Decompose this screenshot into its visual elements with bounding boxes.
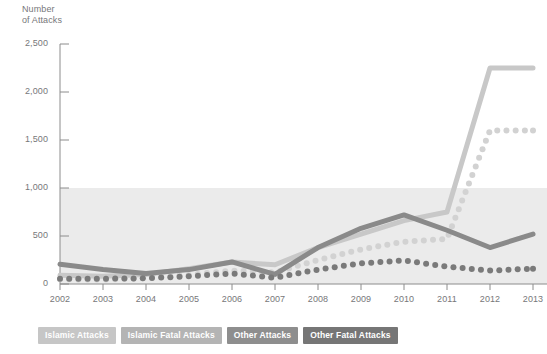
series-dot <box>339 251 345 257</box>
series-dot <box>286 272 292 278</box>
series-dot <box>469 172 475 178</box>
series-dot <box>473 163 479 169</box>
series-dot <box>432 262 438 268</box>
series-dot <box>131 275 137 281</box>
series-dot <box>452 215 458 221</box>
series-dot <box>348 249 354 255</box>
series-dot <box>321 255 327 261</box>
series-dot <box>515 266 521 272</box>
series-dot <box>250 273 256 279</box>
y-axis-tick-label: 1,500 <box>8 134 48 144</box>
series-dot <box>377 259 383 265</box>
series-dot <box>341 263 347 269</box>
series-dot <box>213 271 219 277</box>
series-dot <box>486 129 492 135</box>
series-dot <box>94 276 100 282</box>
x-axis-tick-label: 2010 <box>382 294 426 304</box>
series-dot <box>423 261 429 267</box>
series-dot <box>466 181 472 187</box>
series-dot <box>359 260 365 266</box>
series-dot <box>460 265 466 271</box>
series-dot <box>476 155 482 161</box>
chart-legend: Islamic AttacksIslamic Fatal AttacksOthe… <box>38 327 398 344</box>
x-axis-tick-label: 2012 <box>468 294 512 304</box>
series-dot <box>456 206 462 212</box>
series-dot <box>449 223 455 229</box>
series-dot <box>330 253 336 259</box>
series-dot <box>195 273 201 279</box>
series-dot <box>480 146 486 152</box>
series-dot <box>222 271 228 277</box>
series-dot <box>204 272 210 278</box>
x-axis-tick-label: 2008 <box>296 294 340 304</box>
series-dot <box>314 267 320 273</box>
series-dot <box>459 198 465 204</box>
series-dot <box>350 262 356 268</box>
series-dot <box>332 264 338 270</box>
series-dot <box>112 276 118 282</box>
series-dot <box>503 127 509 133</box>
x-axis-tick-label: 2011 <box>425 294 469 304</box>
series-dot <box>357 247 363 253</box>
y-axis-tick-label: 2,000 <box>8 86 48 96</box>
series-dot <box>85 276 91 282</box>
series-dot <box>313 258 319 264</box>
series-dot <box>496 267 502 273</box>
series-dot <box>402 239 408 245</box>
series-dot <box>304 260 310 266</box>
series-dot <box>396 258 402 264</box>
series-dot <box>375 243 381 249</box>
series-dot <box>384 242 390 248</box>
x-axis-tick-label: 2009 <box>339 294 383 304</box>
series-dot <box>478 267 484 273</box>
series-dot <box>368 260 374 266</box>
legend-item-islamic-fatal-attacks[interactable]: Islamic Fatal Attacks <box>121 327 222 344</box>
series-dot <box>241 272 247 278</box>
series-dot <box>524 266 530 272</box>
series-dot <box>103 276 109 282</box>
x-axis-tick-label: 2004 <box>124 294 168 304</box>
series-dot <box>393 240 399 246</box>
y-axis-tick-label: 1,000 <box>8 182 48 192</box>
series-dot <box>494 127 500 133</box>
x-axis-tick-label: 2013 <box>511 294 547 304</box>
series-dot <box>414 259 420 265</box>
series-dot <box>186 273 192 279</box>
series-dot <box>57 276 63 282</box>
series-dot <box>167 274 173 280</box>
legend-item-islamic-attacks[interactable]: Islamic Attacks <box>38 327 116 344</box>
series-dot <box>513 127 519 133</box>
series-dot <box>463 189 469 195</box>
series-dot <box>412 238 418 244</box>
x-axis-tick-label: 2007 <box>253 294 297 304</box>
series-dot <box>439 236 445 242</box>
series-dot <box>149 275 155 281</box>
series-dot <box>530 266 536 272</box>
series-dot <box>487 268 493 274</box>
series-dot <box>158 275 164 281</box>
series-dot <box>430 237 436 243</box>
y-axis-tick-label: 0 <box>8 278 48 288</box>
series-dot <box>304 269 310 275</box>
series-dot <box>483 138 489 144</box>
series-dot <box>232 271 238 277</box>
x-axis-tick-label: 2006 <box>210 294 254 304</box>
series-dot <box>450 264 456 270</box>
series-dot <box>469 266 475 272</box>
series-dot <box>522 127 528 133</box>
series-dot <box>295 270 301 276</box>
series-dot <box>441 263 447 269</box>
series-dot <box>277 274 283 280</box>
y-axis-tick-label: 500 <box>8 230 48 240</box>
series-dot <box>323 266 329 272</box>
series-dot <box>177 274 183 280</box>
series-dot <box>505 267 511 273</box>
series-dot <box>66 276 72 282</box>
legend-item-other-attacks[interactable]: Other Attacks <box>227 327 298 344</box>
series-dot <box>366 245 372 251</box>
series-dot <box>421 237 427 243</box>
series-dot <box>75 276 81 282</box>
series-dot <box>259 273 265 279</box>
series-dot <box>140 275 146 281</box>
legend-item-other-fatal-attacks[interactable]: Other Fatal Attacks <box>303 327 397 344</box>
